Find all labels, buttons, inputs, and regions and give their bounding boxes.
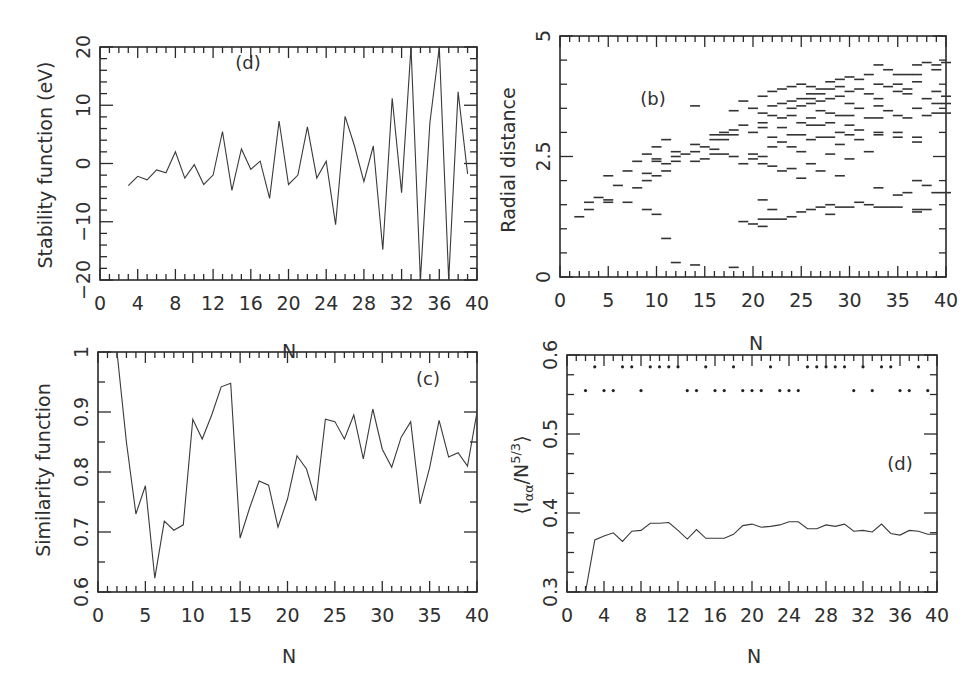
marker-dot [889, 365, 892, 368]
marker-dot [806, 365, 809, 368]
x-tick-label: 36 [888, 604, 912, 626]
x-tick-label: 20 [740, 604, 764, 626]
y-tick-label: 10 [72, 93, 94, 117]
marker-dot [824, 365, 827, 368]
y-tick-label: −10 [72, 202, 94, 242]
marker-dot [676, 365, 679, 368]
x-tick-label: 15 [693, 289, 717, 311]
x-tick-label: 35 [418, 604, 442, 626]
y-tick-label: 20 [72, 35, 94, 59]
marker-dot [686, 389, 689, 392]
stability-series-line [128, 47, 467, 280]
y-tick-label: 5 [532, 30, 554, 42]
y-tick-label: 0.6 [70, 577, 92, 607]
inertia-series-line [586, 522, 938, 592]
x-tick-label: 32 [851, 604, 875, 626]
x-tick-label: 40 [465, 292, 489, 314]
x-tick-label: 5 [139, 604, 151, 626]
stability-ylabel: Stability function (eV) [34, 62, 56, 269]
marker-dot [649, 365, 652, 368]
x-tick-label: 4 [132, 292, 144, 314]
x-tick-label: 40 [934, 289, 958, 311]
radial-panel-label: (b) [640, 88, 665, 109]
x-tick-label: 25 [789, 289, 813, 311]
x-tick-label: 20 [276, 292, 300, 314]
marker-dot [584, 389, 587, 392]
marker-dot [667, 365, 670, 368]
stability-xlabel: N [282, 340, 296, 362]
x-tick-label: 20 [741, 289, 765, 311]
x-tick-label: 0 [92, 604, 104, 626]
marker-dot [704, 365, 707, 368]
x-tick-label: 36 [427, 292, 451, 314]
x-tick-label: 20 [275, 604, 299, 626]
x-tick-label: 28 [814, 604, 838, 626]
x-tick-label: 40 [465, 604, 489, 626]
stability-plot-frame [100, 47, 477, 280]
similarity-panel-label: (c) [416, 368, 440, 389]
marker-dot [861, 365, 864, 368]
x-tick-label: 5 [602, 289, 614, 311]
inertia-xlabel: N [747, 645, 761, 667]
x-tick-label: 30 [837, 289, 861, 311]
x-tick-label: 30 [370, 604, 394, 626]
radial-distance-panel: 051015202530354002.55 [532, 30, 958, 311]
marker-dot [815, 365, 818, 368]
radial-plot-frame [560, 36, 946, 277]
marker-dot [630, 365, 633, 368]
x-tick-label: 40 [925, 604, 949, 626]
y-tick-label: 0.4 [539, 498, 561, 528]
y-tick-label: 0.6 [539, 340, 561, 370]
x-tick-label: 35 [886, 289, 910, 311]
inertia-moment-panel: 04812162024283236400.30.40.50.6 [539, 340, 949, 626]
x-tick-label: 16 [703, 604, 727, 626]
marker-dot [843, 365, 846, 368]
x-tick-label: 10 [181, 604, 205, 626]
y-tick-label: 2.5 [532, 141, 554, 171]
x-tick-label: 15 [228, 604, 252, 626]
y-tick-label: −20 [72, 260, 94, 300]
inertia-panel-label: (d) [887, 453, 912, 474]
marker-dot [750, 389, 753, 392]
marker-dot [658, 365, 661, 368]
marker-dot [612, 389, 615, 392]
marker-dot [602, 389, 605, 392]
marker-dot [834, 365, 837, 368]
marker-dot [713, 389, 716, 392]
marker-dot [917, 365, 920, 368]
y-tick-label: 1 [70, 346, 92, 358]
marker-dot [908, 389, 911, 392]
marker-dot [926, 389, 929, 392]
marker-dot [760, 389, 763, 392]
marker-dot [871, 389, 874, 392]
similarity-ylabel: Similarity function [32, 383, 54, 557]
radial-ylabel: Radial distance [497, 87, 519, 232]
marker-dot [880, 365, 883, 368]
y-tick-label: 0.3 [539, 577, 561, 607]
x-tick-label: 32 [390, 292, 414, 314]
marker-dot [778, 389, 781, 392]
stability-panel-label: (d) [235, 52, 260, 73]
x-tick-label: 0 [554, 289, 566, 311]
x-tick-label: 8 [169, 292, 181, 314]
x-tick-label: 24 [777, 604, 801, 626]
stability-function-panel: 0481216202428323640−20−1001020 [72, 35, 489, 314]
marker-dot [695, 389, 698, 392]
marker-dot [639, 389, 642, 392]
x-tick-label: 25 [323, 604, 347, 626]
marker-dot [852, 389, 855, 392]
x-tick-label: 4 [598, 604, 610, 626]
x-tick-label: 10 [644, 289, 668, 311]
radial-xlabel: N [749, 332, 763, 354]
y-tick-label: 0.5 [539, 419, 561, 449]
y-tick-label: 0.8 [70, 457, 92, 487]
marker-dot [723, 389, 726, 392]
similarity-xlabel: N [282, 645, 296, 667]
x-tick-label: 0 [561, 604, 573, 626]
x-tick-label: 12 [201, 292, 225, 314]
x-tick-label: 24 [314, 292, 338, 314]
x-tick-label: 8 [635, 604, 647, 626]
y-tick-label: 0.7 [70, 517, 92, 547]
marker-dot [621, 365, 624, 368]
marker-dot [797, 389, 800, 392]
